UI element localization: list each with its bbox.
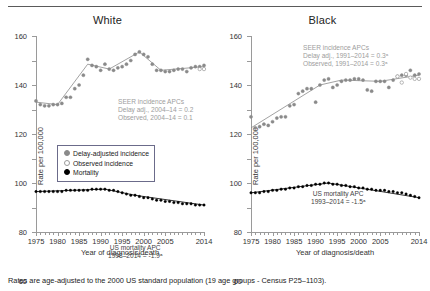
x-tick-minor: [49, 232, 50, 235]
x-tick-minor: [45, 232, 46, 235]
data-point: [349, 185, 352, 188]
y-tick: 80: [247, 134, 251, 135]
data-point: [318, 83, 321, 86]
x-tick-minor: [415, 232, 416, 235]
x-tick-major: [79, 232, 80, 236]
data-point: [370, 90, 373, 93]
x-tick-minor: [148, 232, 149, 235]
data-point: [203, 204, 206, 207]
x-tick-minor: [174, 232, 175, 235]
data-point: [340, 184, 343, 187]
trend-line: [251, 75, 419, 128]
data-point: [357, 77, 360, 80]
x-tick-label: 2014: [411, 237, 428, 246]
data-point: [142, 196, 145, 199]
x-tick-minor: [385, 232, 386, 235]
data-point: [280, 188, 283, 191]
series-canvas-white: [36, 36, 204, 232]
data-point: [345, 184, 348, 187]
x-tick-minor: [88, 232, 89, 235]
data-point: [288, 104, 291, 107]
x-tick-minor: [109, 232, 110, 235]
x-tick-major: [294, 232, 295, 236]
data-point: [262, 123, 265, 126]
data-point: [280, 115, 283, 118]
x-tick-minor: [367, 232, 368, 235]
x-tick-minor: [118, 232, 119, 235]
data-point: [177, 67, 180, 70]
y-tick: 160: [32, 36, 36, 37]
data-point: [104, 188, 107, 191]
note-line-3: Observed, 1991–2014 = 0.3ᵃ: [303, 60, 388, 68]
x-tick-minor: [92, 232, 93, 235]
data-point: [151, 63, 154, 66]
data-point: [319, 183, 322, 186]
x-tick-major: [204, 232, 205, 236]
x-tick-minor: [178, 232, 179, 235]
x-tick-label: 1990: [307, 237, 324, 246]
data-point: [348, 79, 351, 82]
y-tick: 140: [32, 61, 36, 62]
data-point: [292, 103, 295, 106]
data-point: [95, 188, 98, 191]
x-tick-label: 1990: [92, 237, 109, 246]
note-line-1: US mortality APC: [108, 244, 162, 252]
x-tick-label: 1975: [243, 237, 260, 246]
x-tick-major: [36, 232, 37, 236]
figure-footnote: Rates are age-adjusted to the 2000 US st…: [8, 276, 326, 285]
data-point: [82, 74, 85, 77]
x-tick-major: [359, 232, 360, 236]
figure-container: White Rate per 100,000 Year of diagnosis…: [0, 0, 430, 291]
data-point: [39, 190, 42, 193]
data-point: [103, 63, 106, 66]
data-point: [177, 201, 180, 204]
data-point: [249, 115, 252, 118]
data-point: [263, 190, 266, 193]
data-point: [52, 190, 55, 193]
x-tick-minor: [75, 232, 76, 235]
x-tick-major: [380, 232, 381, 236]
legend-item-mortality: Mortality: [62, 168, 149, 178]
x-tick-minor: [157, 232, 158, 235]
x-tick-major: [165, 232, 166, 236]
x-tick-label: 2000: [350, 237, 367, 246]
x-tick-minor: [324, 232, 325, 235]
data-point: [409, 76, 412, 79]
x-tick-minor: [40, 232, 41, 235]
note-line-2: Delay adj., 2004–14 = 0.2: [118, 106, 193, 114]
y-tick-label: 140: [229, 81, 242, 90]
incidence-apc-note-black: SEER incidence APCs Delay adj., 1991–201…: [303, 44, 388, 69]
x-tick-minor: [333, 232, 334, 235]
data-point: [388, 190, 391, 193]
data-point: [74, 189, 77, 192]
x-tick-minor: [281, 232, 282, 235]
x-tick-label: 1980: [264, 237, 281, 246]
data-point: [258, 192, 261, 195]
data-point: [353, 185, 356, 188]
data-point: [387, 86, 390, 89]
data-point: [86, 189, 89, 192]
data-point: [254, 192, 256, 195]
y-tick: 160: [247, 36, 251, 37]
data-point: [61, 190, 64, 193]
data-point: [99, 69, 102, 72]
data-point: [39, 103, 42, 106]
data-point: [418, 196, 421, 199]
data-point: [375, 189, 378, 192]
x-tick-minor: [53, 232, 54, 235]
data-point: [344, 79, 347, 82]
x-tick-minor: [350, 232, 351, 235]
data-point: [121, 65, 124, 68]
data-point: [86, 58, 89, 61]
data-point: [168, 70, 171, 73]
data-point: [293, 187, 296, 190]
x-tick-label: 1975: [28, 237, 45, 246]
data-point: [172, 69, 175, 72]
data-point: [194, 204, 197, 207]
data-point: [95, 65, 98, 68]
data-point: [289, 187, 292, 190]
data-point: [297, 185, 300, 188]
data-point: [383, 189, 386, 192]
x-tick-minor: [200, 232, 201, 235]
data-point: [297, 92, 300, 95]
